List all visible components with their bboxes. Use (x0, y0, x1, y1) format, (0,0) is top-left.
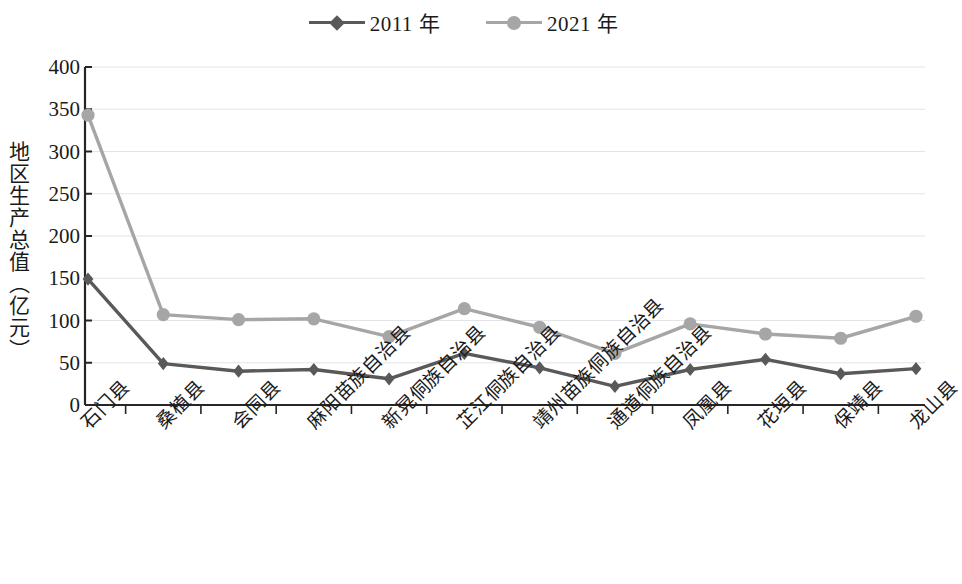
legend-line-2021 (486, 14, 542, 30)
data-point-marker[interactable] (909, 310, 922, 323)
y-tick-label: 50 (32, 352, 80, 373)
legend-label-2021: 2021 年 (547, 7, 618, 37)
data-point-marker[interactable] (384, 372, 395, 385)
legend-label-2011: 2011 年 (370, 7, 440, 37)
data-point-marker[interactable] (459, 347, 470, 360)
data-point-marker[interactable] (608, 347, 621, 360)
data-point-marker[interactable] (911, 362, 922, 375)
plot-area (85, 67, 925, 405)
diamond-marker-icon (329, 15, 344, 30)
y-tick-label: 300 (32, 141, 80, 162)
series-line (88, 115, 916, 353)
data-point-marker[interactable] (232, 313, 245, 326)
series-1 (83, 273, 922, 394)
chart-legend: 2011 年 2021 年 (0, 2, 927, 42)
data-point-marker[interactable] (81, 109, 94, 122)
plot-svg (85, 67, 925, 405)
data-point-marker[interactable] (307, 312, 320, 325)
data-point-marker[interactable] (685, 363, 696, 376)
data-point-marker[interactable] (684, 317, 697, 330)
y-axis-tick-labels: 400350300250200150100500 (30, 0, 80, 584)
data-point-marker[interactable] (533, 321, 546, 334)
y-tick-label: 400 (32, 57, 80, 78)
series-2 (81, 109, 922, 360)
y-tick-label: 100 (32, 310, 80, 331)
legend-entry-2021[interactable]: 2021 年 (486, 7, 618, 37)
legend-line-2011 (309, 14, 365, 30)
data-point-marker[interactable] (834, 332, 847, 345)
data-point-marker[interactable] (610, 380, 621, 393)
data-point-marker[interactable] (157, 308, 170, 321)
y-tick-label: 350 (32, 99, 80, 120)
y-tick-label: 250 (32, 183, 80, 204)
data-point-marker[interactable] (759, 327, 772, 340)
data-point-marker[interactable] (308, 363, 319, 376)
legend-entry-2011[interactable]: 2011 年 (309, 7, 440, 37)
circle-marker-icon (507, 16, 521, 30)
data-point-marker[interactable] (458, 302, 471, 315)
data-point-marker[interactable] (233, 365, 244, 378)
y-tick-label: 200 (32, 226, 80, 247)
data-point-marker[interactable] (382, 330, 395, 343)
y-axis-title: 地区生产总值（亿元） (2, 96, 32, 406)
y-tick-label: 0 (32, 395, 80, 416)
data-point-marker[interactable] (760, 353, 771, 366)
y-tick-label: 150 (32, 268, 80, 289)
series-line (88, 279, 916, 386)
data-point-marker[interactable] (835, 367, 846, 380)
